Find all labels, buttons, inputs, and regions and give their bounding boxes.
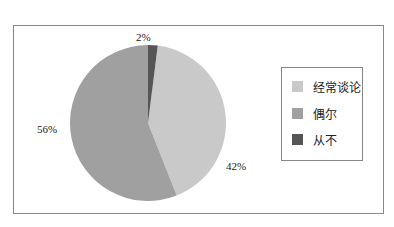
legend: 经常谈论 偶尔 从不 (281, 67, 363, 161)
legend-label: 偶尔 (313, 105, 337, 122)
legend-label: 从不 (313, 131, 337, 148)
legend-item-often: 经常谈论 (292, 78, 361, 95)
legend-swatch (292, 134, 303, 145)
legend-label: 经常谈论 (313, 78, 361, 95)
label-often: 42% (226, 160, 246, 172)
legend-item-never: 从不 (292, 131, 337, 148)
label-never: 2% (136, 31, 151, 43)
legend-item-sometimes: 偶尔 (292, 105, 337, 122)
legend-swatch (292, 108, 303, 119)
legend-swatch (292, 81, 303, 92)
label-sometimes: 56% (37, 123, 57, 135)
